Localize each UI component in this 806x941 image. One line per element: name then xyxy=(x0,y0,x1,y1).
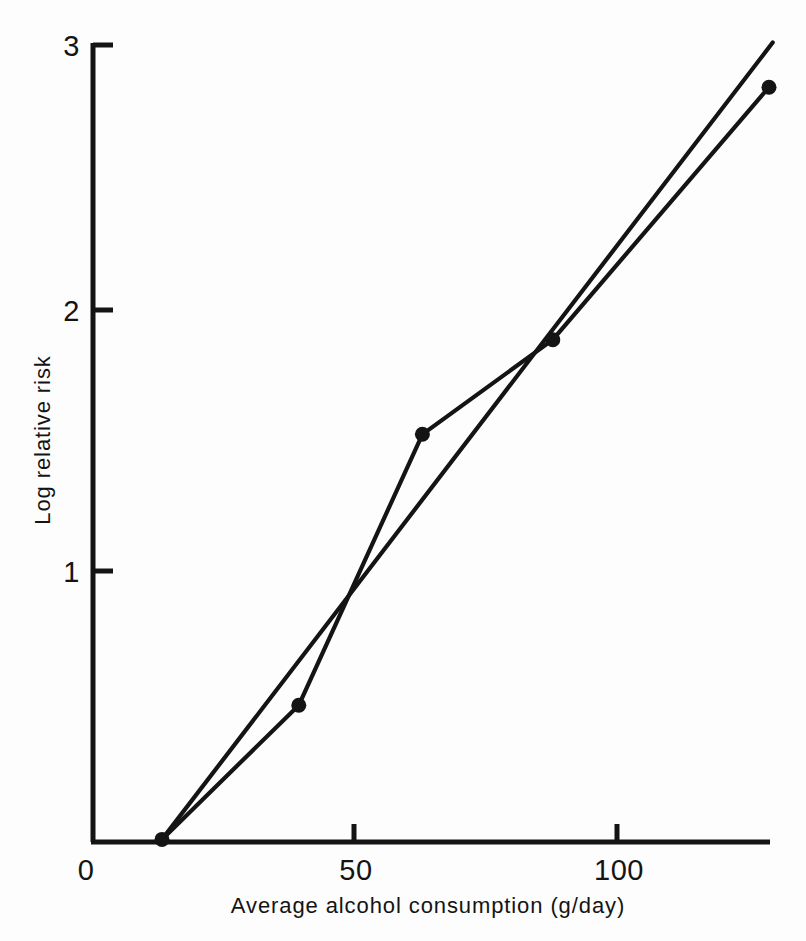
data-point xyxy=(155,832,170,847)
data-point xyxy=(415,427,430,442)
y-tick-label-3: 3 xyxy=(63,30,80,62)
figure-container: 3 2 1 0 50 100 Average alcohol consumpti… xyxy=(0,0,806,941)
x-tick-label-100: 100 xyxy=(594,854,644,886)
y-axis-title: Log relative risk xyxy=(30,355,55,524)
x-tick-label-0: 0 xyxy=(78,854,95,886)
y-tick-label-1: 1 xyxy=(63,556,80,588)
line-chart: 3 2 1 0 50 100 Average alcohol consumpti… xyxy=(0,0,806,941)
x-axis-title: Average alcohol consumption (g/day) xyxy=(231,893,625,918)
data-point xyxy=(291,698,306,713)
data-point xyxy=(545,332,560,347)
observed-line xyxy=(162,87,769,839)
y-tick-label-2: 2 xyxy=(63,295,80,327)
x-tick-label-50: 50 xyxy=(339,854,372,886)
fitted-line xyxy=(162,43,773,840)
data-point xyxy=(762,80,777,95)
data-point-markers xyxy=(155,80,777,847)
